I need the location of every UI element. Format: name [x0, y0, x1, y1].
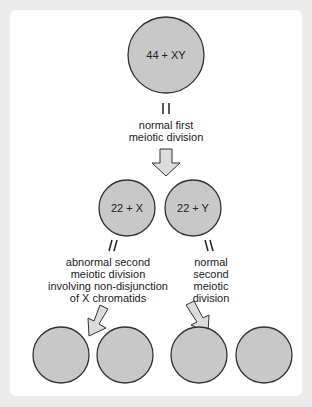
label-line: meiotic division [38, 268, 178, 280]
label-line: second [176, 268, 246, 280]
secondary-cell-x-label: 22 + X [99, 202, 155, 214]
arrow-left-icon [88, 305, 108, 336]
abnormal-second-division-label: abnormal second meiotic division involvi… [38, 256, 178, 304]
meiosis-diagram [0, 0, 312, 407]
label-line: of X chromatids [38, 292, 178, 304]
label-line: meiotic [176, 280, 246, 292]
parent-cell-label: 44 + XY [126, 49, 206, 61]
label-line: normal first [106, 119, 226, 131]
label-line: normal [176, 256, 246, 268]
label-line: abnormal second [38, 256, 178, 268]
normal-second-division-label: normal second meiotic division [176, 256, 246, 304]
gamete-cell-1 [33, 327, 89, 383]
gamete-cell-3 [171, 327, 227, 383]
first-division-label: normal first meiotic division [106, 119, 226, 143]
label-line: involving non-disjunction [38, 280, 178, 292]
down-arrow-icon [152, 149, 180, 176]
gamete-cell-2 [97, 327, 153, 383]
connector-lines-icon [163, 103, 169, 114]
secondary-cell-y-label: 22 + Y [165, 202, 221, 214]
label-line: division [176, 292, 246, 304]
label-line: meiotic division [106, 131, 226, 143]
gamete-cell-4 [236, 327, 292, 383]
connector-lines-icon [109, 240, 213, 251]
